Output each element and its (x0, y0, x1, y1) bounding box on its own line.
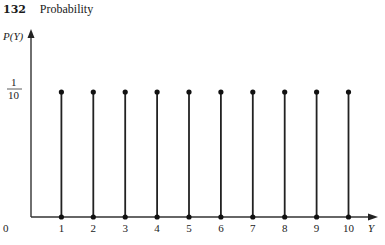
stem-base-dot (155, 214, 160, 219)
xtick-labels: 12345678910 (59, 222, 355, 234)
y-axis-arrow-icon (28, 29, 35, 38)
stem-top-dot (91, 89, 96, 94)
stem-top-dot (186, 89, 191, 94)
stems-group (59, 89, 351, 219)
stem-top-dot (218, 89, 223, 94)
stem-top-dot (123, 89, 128, 94)
xtick-label: 3 (122, 222, 128, 234)
xtick-label: 10 (343, 222, 355, 234)
xtick-label: 8 (282, 222, 288, 234)
stem-base-dot (218, 214, 223, 219)
stem (59, 89, 64, 219)
xtick-label: 7 (250, 222, 256, 234)
x-axis-arrow-icon (368, 214, 378, 221)
stem-base-dot (282, 214, 287, 219)
ytick-numerator: 1 (11, 76, 17, 88)
stem (91, 89, 96, 219)
ytick-denominator: 10 (8, 89, 20, 101)
xtick-label: 6 (218, 222, 224, 234)
stem (218, 89, 223, 219)
stem-base-dot (186, 214, 191, 219)
stem-base-dot (91, 214, 96, 219)
stem-base-dot (59, 214, 64, 219)
stem (123, 89, 128, 219)
xtick-label: 5 (186, 222, 192, 234)
stem-top-dot (314, 89, 319, 94)
stem (346, 89, 351, 219)
origin-label: 0 (3, 222, 9, 234)
xtick-label: 1 (59, 222, 65, 234)
stem (282, 89, 287, 219)
x-axis-label: Y (368, 222, 376, 234)
stem-top-dot (346, 89, 351, 94)
stem-base-dot (314, 214, 319, 219)
stem (155, 89, 160, 219)
stem-top-dot (282, 89, 287, 94)
xtick-label: 2 (91, 222, 97, 234)
stem-base-dot (250, 214, 255, 219)
xtick-label: 4 (154, 222, 160, 234)
stem-top-dot (155, 89, 160, 94)
stem-base-dot (346, 214, 351, 219)
stem (186, 89, 191, 219)
y-axis-label: P(Y) (2, 30, 24, 43)
stem-top-dot (59, 89, 64, 94)
xtick-label: 9 (314, 222, 320, 234)
stem-top-dot (250, 89, 255, 94)
stem-base-dot (123, 214, 128, 219)
stem-chart: P(Y) Y 0 1 10 12345678910 (0, 0, 385, 245)
stem (314, 89, 319, 219)
stem (250, 89, 255, 219)
